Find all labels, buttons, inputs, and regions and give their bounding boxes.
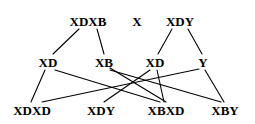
edge-xdy-top-to-y — [188, 29, 202, 54]
node-x: X — [132, 15, 141, 28]
node-y: Y — [198, 56, 207, 69]
edge-xdy-top-to-xd-right — [158, 29, 172, 54]
node-xdy-bottom: XDY — [87, 104, 115, 117]
node-xdxd: XDXD — [13, 104, 51, 117]
edges-group — [31, 29, 224, 102]
edge-xdxb-to-xb — [97, 29, 104, 54]
node-xb: XB — [95, 56, 113, 69]
node-xd-right: XD — [146, 56, 165, 69]
edge-xdxb-to-xd-left — [53, 29, 79, 54]
derivation-diagram: XDXBXXDYXDXBXDYXDXDXDYXBXDXBY — [0, 0, 255, 124]
edge-xd-left-to-xdxd — [31, 70, 45, 102]
node-xd-left: XD — [39, 56, 58, 69]
node-xdxb: XDXB — [70, 15, 107, 28]
node-xdy-top: XDY — [166, 15, 194, 28]
edge-xd-left-to-xbxd — [55, 70, 160, 102]
node-xbxd: XBXD — [148, 104, 185, 117]
node-xby: XBY — [211, 104, 238, 117]
edge-y-to-xby — [205, 70, 224, 102]
